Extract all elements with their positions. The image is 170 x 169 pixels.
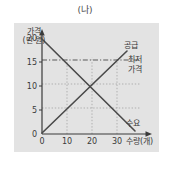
- x-axis-title: 수량(개): [126, 137, 153, 146]
- supply-curve-label: 공급: [124, 39, 138, 50]
- x-axis: [42, 131, 152, 136]
- price-floor-label: 최저 가격: [128, 55, 142, 75]
- x-tick-label-0: 0: [33, 137, 51, 146]
- x-tick-label-20: 20: [83, 137, 101, 146]
- demand-curve: [42, 39, 135, 131]
- y-tick-label-20: 20: [18, 34, 37, 43]
- y-tick-label-10: 10: [18, 82, 37, 91]
- x-tick-label-30: 30: [108, 137, 126, 146]
- y-tick-label-15: 15: [18, 58, 37, 67]
- supply-curve: [42, 51, 127, 133]
- x-tick-label-10: 10: [58, 137, 76, 146]
- demand-curve-label: 수요: [126, 117, 140, 128]
- price-floor-label-line2: 가격: [128, 65, 142, 75]
- price-floor-label-line1: 최저: [128, 55, 142, 65]
- y-tick-label-5: 5: [18, 106, 37, 115]
- chart-figure: (나): [0, 0, 170, 169]
